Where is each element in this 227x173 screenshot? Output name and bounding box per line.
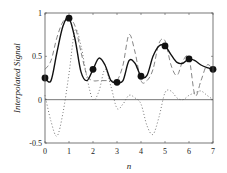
- axes-frame: [45, 13, 213, 143]
- y-tick-label: 0.5: [32, 52, 42, 61]
- x-axis-label: n: [127, 161, 132, 171]
- sample-marker: [66, 15, 73, 22]
- x-tick-label: 3: [115, 147, 119, 156]
- sample-marker: [162, 43, 169, 50]
- plot-area: [42, 15, 217, 136]
- y-tick-label: -0.5: [29, 139, 42, 148]
- x-tick-label: 7: [211, 147, 215, 156]
- sample-marker: [186, 56, 193, 63]
- y-axis-ticks: -0.500.51: [29, 9, 213, 148]
- x-tick-label: 5: [163, 147, 167, 156]
- x-axis-ticks: 01234567: [43, 13, 215, 156]
- sample-marker: [114, 79, 121, 86]
- chart: 01234567 -0.500.51 n Interpolated Signal: [0, 0, 227, 173]
- sample-marker: [90, 66, 97, 73]
- sample-marker: [138, 73, 145, 80]
- y-tick-label: 0: [38, 96, 42, 105]
- x-tick-label: 6: [187, 147, 191, 156]
- x-tick-label: 2: [91, 147, 95, 156]
- y-tick-label: 1: [38, 9, 42, 18]
- y-axis-label: Interpolated Signal: [12, 43, 22, 114]
- series-solid-line: [45, 18, 213, 83]
- series-dotted-line: [45, 29, 213, 136]
- x-tick-label: 1: [67, 147, 71, 156]
- x-tick-label: 4: [139, 147, 143, 156]
- x-tick-label: 0: [43, 147, 47, 156]
